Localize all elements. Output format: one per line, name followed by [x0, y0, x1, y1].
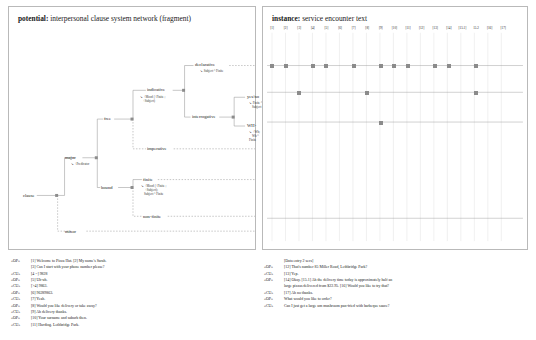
realization-yes-no: ↘ Finite ^ Subject [249, 102, 262, 110]
node-interrogative: interrogative [192, 114, 215, 119]
realization-major: ↘ +Predicator [71, 163, 89, 167]
node-declarative: declarative [195, 62, 215, 67]
instance-marker [447, 64, 451, 68]
transcript-line: «CU»[11] Harding. Lethbridge Park. [11, 322, 107, 328]
realization-indicative-line2: +Subject) [140, 100, 165, 104]
left-transcript: «OP»[1] Welcome to Pizza Hut. [2] My nam… [11, 258, 107, 328]
realization-finite: ↘ +Mood (+Finite ; +Subject); Subject ^ … [141, 185, 166, 196]
instance-marker [474, 91, 478, 95]
node-free: free [104, 116, 111, 121]
transcript-utterance: [11] Harding. Lethbridge Park. [31, 322, 107, 328]
instance-marker [474, 64, 478, 68]
node-wh: WH- [247, 123, 256, 128]
column-label: [17] [494, 26, 512, 30]
instance-marker [352, 64, 356, 68]
instance-marker [365, 91, 369, 95]
transcript-speaker: «CU» [11, 322, 31, 328]
node-imperative: imperative [147, 146, 167, 151]
node-major: major [65, 155, 76, 160]
transcript-line: «CU»Can I just get a large um mushroom p… [264, 303, 392, 309]
node-clause: clause [23, 193, 34, 198]
transcript-speaker: «OP» [264, 277, 284, 283]
potential-panel: potential: interpersonal clause system n… [8, 6, 256, 250]
instance-marker [311, 64, 315, 68]
node-bound: bound [101, 185, 112, 190]
instance-marker [324, 64, 328, 68]
node-yes-no: yes/no [247, 94, 259, 99]
instance-panel: instance: service encounter text [1][2][… [262, 6, 528, 250]
transcript-speaker: «CU» [264, 303, 284, 309]
instance-marker [270, 64, 274, 68]
instance-marker [392, 64, 396, 68]
instance-marker [433, 64, 437, 68]
instance-marker [297, 91, 301, 95]
system-network-lines [9, 7, 255, 249]
instance-marker [284, 64, 288, 68]
instance-marker [406, 64, 410, 68]
node-non-finite: non-finite [143, 214, 161, 219]
realization-declarative: ↘ Subject ^ Finite [200, 70, 223, 74]
realization-finite-line3: Subject ^ Finite [141, 193, 166, 197]
instance-marker [379, 64, 383, 68]
instance-marker [379, 121, 383, 125]
transcript-speaker: «OP» [11, 258, 31, 264]
instance-matrix-grid [263, 7, 527, 249]
node-finite: finite [143, 177, 153, 182]
realization-wh: ↘ +Wh; Wh ^ Finite [249, 131, 260, 142]
realization-wh-line3: Finite [249, 139, 260, 143]
transcript-utterance: Can I just get a large um mushroom pan-f… [284, 303, 392, 309]
realization-yes-no-line2: Subject [249, 106, 262, 110]
node-indicative: indicative [147, 87, 165, 92]
right-transcript: [Data entry 2 secs]«OP»[12] That's numbe… [264, 258, 392, 309]
node-minor: minor [65, 229, 76, 234]
realization-indicative: ↘ +Mood (+Finite ; +Subject) [140, 96, 165, 104]
